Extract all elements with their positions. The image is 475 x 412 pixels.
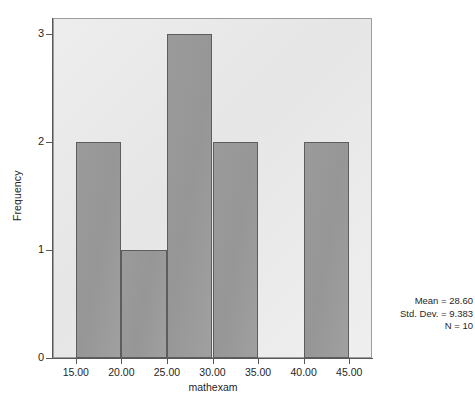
std-dev-text: Std. Dev. = 9.383 — [374, 308, 473, 321]
y-axis-line — [52, 18, 53, 359]
x-axis-title: mathexam — [53, 381, 373, 393]
y-tick-mark — [46, 34, 52, 35]
x-tick-mark — [349, 358, 350, 364]
histogram-figure: Frequency 0123 15.0020.0025.0030.0035.00… — [0, 0, 475, 412]
x-tick-label: 45.00 — [319, 366, 379, 379]
x-tick-mark — [121, 358, 122, 364]
y-tick-mark — [46, 142, 52, 143]
y-tick-label: 3 — [0, 28, 44, 39]
x-tick-mark — [258, 358, 259, 364]
y-tick-mark — [46, 250, 52, 251]
x-tick-mark — [304, 358, 305, 364]
y-axis-title: Frequency — [11, 150, 35, 242]
y-tick-mark — [46, 358, 52, 359]
histogram-bar — [304, 142, 350, 358]
x-tick-mark — [213, 358, 214, 364]
histogram-bar — [76, 142, 122, 358]
x-tick-mark — [167, 358, 168, 364]
x-tick-mark — [76, 358, 77, 364]
mean-text: Mean = 28.60 — [374, 295, 473, 308]
y-tick-label: 0 — [0, 352, 44, 363]
y-tick-label: 1 — [0, 244, 44, 255]
y-tick-label: 2 — [0, 136, 44, 147]
plot-area — [53, 18, 372, 358]
histogram-bar — [167, 34, 213, 358]
statistics-annotation: Mean = 28.60 Std. Dev. = 9.383 N = 10 — [374, 295, 473, 333]
sample-size-text: N = 10 — [374, 320, 473, 333]
histogram-bar — [213, 142, 259, 358]
histogram-bar — [121, 250, 167, 358]
